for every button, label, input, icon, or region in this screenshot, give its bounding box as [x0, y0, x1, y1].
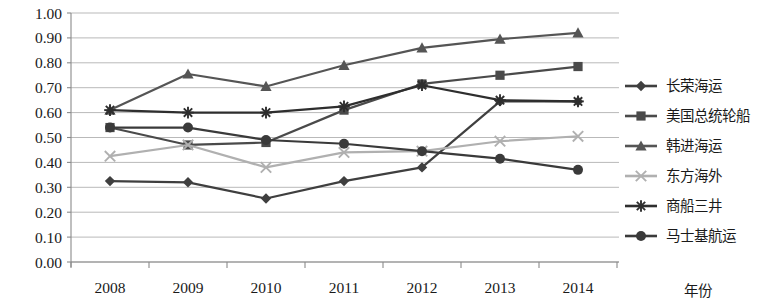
marker-circle	[339, 139, 349, 149]
series-5	[105, 123, 583, 175]
legend-label: 商船三井	[666, 198, 722, 214]
y-tick-label: 0.10	[35, 229, 62, 246]
series-line	[110, 33, 578, 110]
x-tick-label: 2012	[407, 279, 438, 296]
y-tick-label: 1.00	[35, 5, 62, 22]
legend-label: 美国总统轮船	[666, 108, 750, 124]
legend-label: 东方海外	[666, 168, 722, 184]
marker-circle	[105, 123, 115, 133]
marker-diamond	[339, 176, 349, 186]
x-tick-label: 2008	[95, 279, 126, 296]
legend: 长荣海运美国总统轮船韩进海运东方海外商船三井马士基航运	[625, 78, 750, 244]
x-axis-tick-labels: 2008200920102011201220132014	[95, 279, 594, 296]
marker-asterisk	[494, 94, 506, 106]
x-tick-label: 2011	[329, 279, 359, 296]
legend-label: 韩进海运	[666, 138, 723, 154]
marker-circle	[183, 123, 193, 133]
marker-diamond	[261, 193, 271, 203]
marker-square	[636, 111, 645, 120]
legend-item-0[interactable]: 长荣海运	[625, 78, 723, 94]
marker-circle	[636, 231, 646, 241]
line-chart: 0.000.100.200.300.400.500.600.700.800.90…	[0, 0, 761, 306]
marker-square	[495, 71, 504, 80]
y-tick-label: 0.40	[35, 154, 62, 171]
marker-asterisk	[416, 79, 428, 91]
x-tick-label: 2014	[563, 279, 594, 296]
y-tick-label: 0.70	[35, 79, 62, 96]
marker-diamond	[183, 177, 193, 187]
series-layer	[104, 27, 584, 203]
marker-circle	[495, 154, 505, 164]
marker-square	[573, 62, 582, 71]
marker-circle	[573, 165, 583, 175]
legend-label: 马士基航运	[666, 228, 737, 244]
chart-canvas: 0.000.100.200.300.400.500.600.700.800.90…	[0, 0, 761, 306]
y-tick-label: 0.30	[35, 179, 62, 196]
marker-asterisk	[572, 96, 584, 108]
marker-diamond	[105, 176, 115, 186]
x-tick-label: 2013	[485, 279, 516, 296]
legend-item-1[interactable]: 美国总统轮船	[625, 108, 750, 124]
marker-asterisk	[338, 101, 350, 113]
legend-label: 长荣海运	[666, 78, 723, 94]
marker-asterisk	[104, 104, 116, 116]
legend-item-5[interactable]: 马士基航运	[625, 228, 737, 244]
x-tick-label: 2010	[251, 279, 282, 296]
y-tick-label: 0.80	[35, 54, 62, 71]
y-tick-label: 0.60	[35, 104, 62, 121]
legend-item-3[interactable]: 东方海外	[625, 168, 722, 184]
marker-asterisk	[635, 200, 647, 212]
legend-item-4[interactable]: 商船三井	[625, 198, 722, 214]
marker-triangle	[182, 68, 193, 78]
x-tick-label: 2009	[173, 279, 204, 296]
y-tick-label: 0.00	[35, 254, 62, 271]
y-tick-label: 0.20	[35, 204, 62, 221]
marker-circle	[261, 135, 271, 145]
legend-item-2[interactable]: 韩进海运	[625, 138, 723, 154]
marker-asterisk	[182, 107, 194, 119]
marker-circle	[417, 146, 427, 156]
y-axis-tick-labels: 0.000.100.200.300.400.500.600.700.800.90…	[35, 5, 71, 271]
marker-diamond	[636, 81, 646, 91]
x-axis-title: 年份	[684, 283, 713, 299]
y-tick-label: 0.50	[35, 129, 62, 146]
y-tick-label: 0.90	[35, 29, 62, 46]
marker-asterisk	[260, 107, 272, 119]
